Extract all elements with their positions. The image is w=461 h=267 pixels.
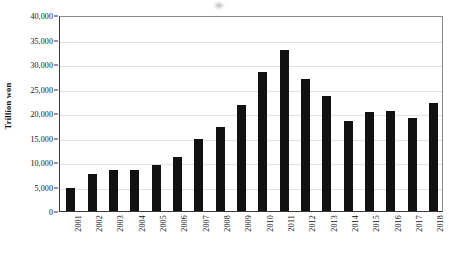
bar-2003 <box>109 170 118 211</box>
bar-2016 <box>386 111 395 211</box>
y-tick-label-20000: 20,000 <box>30 110 53 119</box>
bar-2011 <box>280 50 289 211</box>
x-tick-label-2015: 2015 <box>372 215 381 255</box>
x-tick-label-2010: 2010 <box>266 215 275 255</box>
y-tick-mark <box>54 138 58 139</box>
bar-2014 <box>344 121 353 211</box>
x-tick-label-2012: 2012 <box>308 215 317 255</box>
bar-2015 <box>365 112 374 211</box>
x-tick-label-2009: 2009 <box>244 215 253 255</box>
y-tick-label-15000: 15,000 <box>30 134 53 143</box>
bar-2007 <box>194 139 203 211</box>
bar-2004 <box>130 170 139 211</box>
y-axis-title-label: Trillion won <box>3 83 13 130</box>
y-tick-mark <box>54 212 58 213</box>
y-tick-mark <box>54 16 58 17</box>
bar-2001 <box>66 188 75 211</box>
y-tick-mark <box>54 187 58 188</box>
x-tick-label-2017: 2017 <box>415 215 424 255</box>
y-tick-mark <box>54 89 58 90</box>
x-tick-label-2007: 2007 <box>202 215 211 255</box>
bar-2008 <box>216 127 225 211</box>
y-tick-label-35000: 35,000 <box>30 36 53 45</box>
x-tick-label-2002: 2002 <box>95 215 104 255</box>
y-axis-tick-labels: 05,00010,00015,00020,00025,00030,00035,0… <box>16 16 58 212</box>
y-tick-mark <box>54 114 58 115</box>
bar-2002 <box>88 174 97 211</box>
y-tick-label-30000: 30,000 <box>30 61 53 70</box>
y-tick-label-5000: 5,000 <box>35 183 54 192</box>
y-axis-title: Trillion won <box>0 0 16 212</box>
x-tick-label-2013: 2013 <box>330 215 339 255</box>
x-tick-label-2008: 2008 <box>223 215 232 255</box>
bar-2010 <box>258 72 267 211</box>
y-tick-mark <box>54 163 58 164</box>
bar-2012 <box>301 79 310 211</box>
y-tick-label-40000: 40,000 <box>30 12 53 21</box>
bar-2013 <box>322 96 331 211</box>
x-tick-label-2005: 2005 <box>159 215 168 255</box>
x-tick-label-2001: 2001 <box>74 215 83 255</box>
bars-layer <box>60 17 442 211</box>
x-axis-tick-labels: 2001200220032004200520062007200820092010… <box>59 213 443 253</box>
x-tick-label-2016: 2016 <box>394 215 403 255</box>
bar-2009 <box>237 105 246 211</box>
x-tick-label-2014: 2014 <box>351 215 360 255</box>
x-tick-label-2003: 2003 <box>116 215 125 255</box>
bar-2018 <box>429 103 438 211</box>
bar-2005 <box>152 165 161 211</box>
y-tick-label-0: 0 <box>49 208 53 217</box>
bar-chart-figure: Trillion won 05,00010,00015,00020,00025,… <box>0 0 461 267</box>
x-tick-label-2011: 2011 <box>287 215 296 255</box>
bar-2017 <box>408 118 417 211</box>
y-tick-label-10000: 10,000 <box>30 159 53 168</box>
y-tick-label-25000: 25,000 <box>30 85 53 94</box>
plot-area <box>59 16 443 212</box>
y-tick-mark <box>54 40 58 41</box>
x-tick-label-2018: 2018 <box>436 215 445 255</box>
y-tick-mark <box>54 65 58 66</box>
x-tick-label-2006: 2006 <box>180 215 189 255</box>
x-tick-label-2004: 2004 <box>138 215 147 255</box>
scan-artifact-speck <box>213 1 225 10</box>
bar-2006 <box>173 157 182 211</box>
